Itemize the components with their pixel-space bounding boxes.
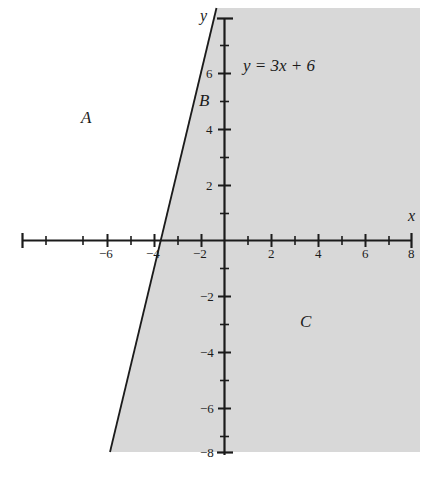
y-axis-label: y — [200, 8, 207, 24]
y-tick-label-neg6: −6 — [200, 402, 214, 415]
x-tick-label-neg6: −6 — [99, 247, 113, 260]
y-tick-label-6: 6 — [206, 67, 213, 80]
y-tick-label-4: 4 — [206, 123, 213, 136]
equation-label: y = 3x + 6 — [243, 57, 315, 74]
region-label-a: A — [81, 109, 91, 126]
graph-figure: x y −6 −4 −2 2 4 6 8 6 4 2 −2 −4 −6 −8 y… — [0, 0, 447, 479]
y-tick-label-neg4: −4 — [200, 346, 214, 359]
y-tick-label-2: 2 — [206, 179, 213, 192]
coordinate-plane — [0, 0, 447, 479]
x-tick-label-neg2: −2 — [193, 247, 207, 260]
y-tick-label-neg8: −8 — [200, 446, 214, 459]
x-axis-label: x — [408, 208, 415, 224]
region-label-b: B — [199, 92, 209, 109]
y-tick-label-neg2: −2 — [200, 290, 214, 303]
x-tick-label-6: 6 — [362, 247, 369, 260]
x-tick-label-8: 8 — [408, 247, 415, 260]
x-tick-label-4: 4 — [315, 247, 322, 260]
x-tick-label-2: 2 — [268, 247, 275, 260]
region-label-c: C — [300, 313, 311, 330]
x-tick-label-neg4: −4 — [146, 247, 160, 260]
